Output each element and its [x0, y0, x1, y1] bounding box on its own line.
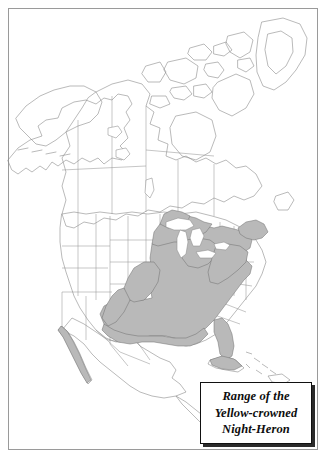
- greenland-inner-detail: [265, 31, 293, 74]
- canada-province-lines: [62, 96, 214, 216]
- great-slave-lake: [116, 148, 130, 160]
- lake-winnipeg: [145, 178, 154, 198]
- arctic-island-e: [150, 96, 170, 108]
- legend-line-1: Range of the: [222, 388, 289, 405]
- aleutian-chain: [18, 148, 70, 156]
- great-bear-lake: [108, 126, 122, 138]
- range-florida-peninsula: [214, 318, 234, 360]
- baffin-island: [212, 74, 254, 116]
- bahamas-chain: [246, 352, 276, 374]
- arctic-island-f: [214, 42, 232, 56]
- victoria-island: [164, 58, 198, 84]
- ellesmere-island: [226, 32, 253, 58]
- range-map-page: Range of the Yellow-crowned Night-Heron: [0, 0, 327, 458]
- arctic-island-b: [204, 62, 224, 78]
- range-cuba: [210, 356, 242, 370]
- banks-island: [142, 62, 166, 82]
- legend-line-3: Night-Heron: [222, 421, 290, 438]
- map-legend-box: Range of the Yellow-crowned Night-Heron: [200, 382, 312, 444]
- arctic-island-c: [170, 86, 192, 100]
- arctic-island-d: [194, 84, 212, 98]
- arctic-island-a: [188, 44, 212, 60]
- range-shading-group: [58, 210, 268, 383]
- newfoundland-island: [274, 192, 294, 210]
- greenland-outline: [256, 18, 307, 90]
- arctic-island-g: [238, 58, 254, 72]
- legend-line-2: Yellow-crowned: [215, 405, 298, 422]
